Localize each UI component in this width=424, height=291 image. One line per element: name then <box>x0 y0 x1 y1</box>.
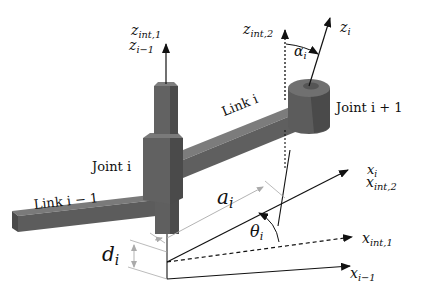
label-z-i: zi <box>340 20 351 37</box>
label-sub: int,1 <box>370 237 393 248</box>
label-sub: i <box>303 50 306 61</box>
link-i-shape <box>178 103 305 178</box>
label-theta-i: θi <box>250 224 263 243</box>
x-i-minus-1-axis <box>167 266 350 279</box>
label-x-int-1: xint,1 <box>362 231 393 248</box>
joint-i-plus-1-shape <box>288 79 330 134</box>
label-base: x <box>362 230 370 246</box>
label-sub: i <box>229 195 233 211</box>
label-z-i-minus-1: zi−1 <box>129 38 154 55</box>
label-base: θ <box>250 222 260 241</box>
label-joint-i-plus-1: Joint i + 1 <box>336 101 403 114</box>
label-joint-i: Joint i <box>92 160 131 173</box>
x-i-axis <box>167 170 348 262</box>
label-base: a <box>217 185 229 209</box>
label-base: d <box>102 242 115 266</box>
label-sub: i <box>115 252 119 268</box>
joint-i-block <box>143 133 183 204</box>
label-base: x <box>366 174 374 190</box>
label-sub: int,2 <box>250 28 273 39</box>
label-base: x <box>350 265 358 281</box>
label-d-i: di <box>102 244 119 267</box>
diagram-graphics <box>0 0 424 291</box>
label-sub: i−1 <box>136 44 154 55</box>
label-x-i-minus-1: xi−1 <box>350 266 375 283</box>
joint-i-upper-post <box>154 82 178 134</box>
label-alpha-i: αi <box>294 44 307 61</box>
z-i-projection-line <box>278 150 290 226</box>
label-sub: int,2 <box>374 181 397 192</box>
label-sub: i−1 <box>358 272 376 283</box>
z-i-axis <box>309 18 330 86</box>
label-z-int-2: zint,2 <box>243 22 273 39</box>
label-sub: i <box>260 230 264 243</box>
label-sub: i <box>347 26 350 37</box>
dh-parameter-diagram: zint,1 zi−1 zint,2 zi xi xint,2 xint,1 x… <box>0 0 424 291</box>
label-x-int-2: xint,2 <box>366 175 397 192</box>
label-a-i: ai <box>217 187 233 210</box>
